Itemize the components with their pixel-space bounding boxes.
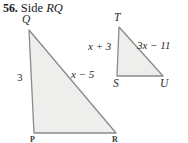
- triangle-STU-shape: [117, 27, 163, 76]
- vertex-label-T: T: [114, 12, 120, 23]
- side-label-QP: 3: [17, 72, 23, 83]
- problem-figure-page: 56. Side RQ Q P R 3 x − 5 T S U x + 3 3x…: [0, 0, 188, 143]
- vertex-label-R: R: [112, 134, 118, 143]
- vertex-label-P: P: [30, 134, 35, 143]
- vertex-label-Q: Q: [22, 14, 30, 25]
- vertex-label-U: U: [160, 78, 168, 89]
- vertex-label-S: S: [113, 78, 119, 89]
- side-label-QR: x − 5: [71, 69, 94, 80]
- side-label-TU: 3x − 11: [137, 40, 171, 51]
- side-label-TS: x + 3: [88, 41, 111, 52]
